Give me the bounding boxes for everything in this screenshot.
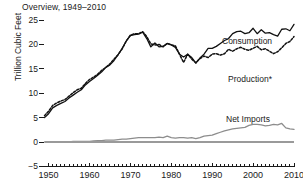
production-label: Production* (228, 74, 272, 84)
consumption-label: Consumption (222, 36, 272, 46)
plot-area (0, 0, 303, 185)
series-line-net-imports (45, 123, 295, 142)
net-imports-label: Net Imports (226, 114, 270, 124)
chart-figure: Overview, 1949–2010 Trillion Cubic Feet … (0, 0, 303, 185)
